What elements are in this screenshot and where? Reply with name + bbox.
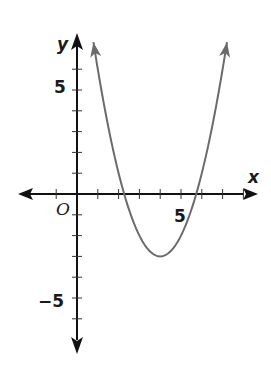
y-tick-label-5: 5 xyxy=(54,77,66,97)
coordinate-plane: y x O 5 −5 5 xyxy=(0,0,271,370)
x-axis-label: x xyxy=(247,167,260,187)
y-axis-label: y xyxy=(57,34,69,54)
origin-label: O xyxy=(56,199,70,219)
parabola-curve xyxy=(93,42,227,256)
x-axis-right-arrow-icon xyxy=(243,188,258,200)
x-tick-label-5: 5 xyxy=(174,206,186,226)
y-tick-label-neg5: −5 xyxy=(38,291,64,311)
